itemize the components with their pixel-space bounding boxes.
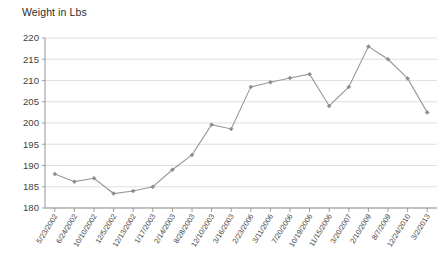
y-tick-label-220: 220 <box>23 32 39 43</box>
y-tick-label-185: 185 <box>23 181 39 192</box>
series-line-weight <box>55 47 427 194</box>
y-tick-label-205: 205 <box>23 96 39 107</box>
data-point-10 <box>249 85 253 89</box>
y-tick-label-180: 180 <box>23 202 39 213</box>
y-tick-label-200: 200 <box>23 117 39 128</box>
x-tick-label-19: 3/2/2013 <box>409 212 432 241</box>
y-tick-label-215: 215 <box>23 54 39 65</box>
data-point-1 <box>72 180 76 184</box>
gridlines-group <box>45 38 437 208</box>
y-axis-group: 180185190195200205210215220 <box>23 32 45 213</box>
y-tick-label-195: 195 <box>23 139 39 150</box>
data-series-group <box>53 45 429 196</box>
y-tick-label-210: 210 <box>23 75 39 86</box>
data-point-12 <box>288 76 292 80</box>
data-point-4 <box>131 189 135 193</box>
data-point-0 <box>53 172 57 176</box>
x-axis-group: 5/23/20026/24/200210/10/200212/5/200212/… <box>34 208 437 248</box>
chart-plot-area: 180185190195200205210215220 5/23/20026/2… <box>0 0 442 261</box>
data-point-9 <box>229 127 233 131</box>
weight-line-chart: Weight in Lbs 18018519019520020521021522… <box>0 0 442 261</box>
y-tick-label-190: 190 <box>23 160 39 171</box>
